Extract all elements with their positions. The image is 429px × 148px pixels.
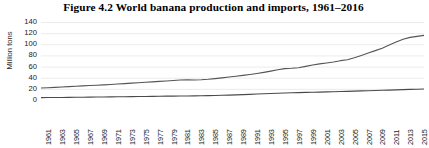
x-tick-label: 2011 (392, 130, 401, 145)
y-axis-tick-labels: 020406080100120140 (0, 22, 37, 100)
x-axis-tick-labels: 1961196319651967196919711973197519771979… (41, 101, 424, 147)
x-tick-label: 2009 (378, 129, 387, 145)
x-tick-label: 1983 (197, 129, 206, 145)
figure-title: Figure 4.2 World banana production and i… (0, 1, 427, 13)
y-tick-label: 80 (3, 51, 37, 59)
x-tick-label: 2003 (337, 129, 346, 145)
y-tick-label: 20 (3, 85, 37, 93)
x-tick-label: 2005 (351, 129, 360, 145)
gridlines (41, 23, 424, 101)
x-tick-label: 1987 (225, 129, 234, 145)
x-tick-label: 2001 (323, 129, 332, 145)
x-tick-label: 1967 (86, 129, 95, 145)
y-tick-label: 0 (3, 96, 37, 104)
x-tick-label: 2013 (406, 129, 415, 145)
x-tick-label: 1961 (44, 129, 53, 145)
x-tick-label: 1975 (142, 129, 151, 145)
series-line-production (41, 35, 424, 88)
x-tick-label: 1965 (72, 129, 81, 145)
y-tick-label: 100 (3, 40, 37, 48)
x-tick-label: 1981 (183, 129, 192, 145)
plot-area (41, 22, 424, 100)
x-tick-label: 2015 (420, 129, 429, 145)
chart-canvas (41, 22, 424, 100)
x-tick-label: 1995 (281, 129, 290, 145)
x-tick-label: 1985 (211, 129, 220, 145)
x-tick-label: 1973 (128, 129, 137, 145)
x-tick-label: 1977 (156, 129, 165, 145)
x-tick-label: 1999 (309, 129, 318, 145)
x-tick-label: 1971 (114, 129, 123, 145)
y-tick-label: 60 (3, 63, 37, 71)
series-line-imports (41, 89, 424, 98)
x-tick-label: 1989 (239, 129, 248, 145)
y-tick-label: 140 (3, 18, 37, 26)
x-tick-label: 1997 (295, 129, 304, 145)
y-tick-label: 120 (3, 29, 37, 37)
x-tick-label: 1969 (100, 129, 109, 145)
x-tick-label: 2007 (365, 129, 374, 145)
y-tick-label: 40 (3, 74, 37, 82)
x-tick-label: 1993 (267, 129, 276, 145)
x-tick-label: 1991 (253, 129, 262, 145)
x-tick-label: 1979 (170, 129, 179, 145)
x-tick-label: 1963 (58, 129, 67, 145)
